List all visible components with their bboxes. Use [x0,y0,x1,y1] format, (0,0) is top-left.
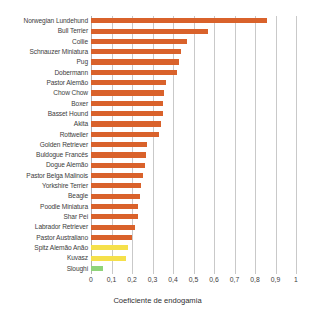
bar [91,256,126,261]
bar [91,245,128,250]
x-tick-label: 0,5 [189,276,198,283]
x-tick-label: 0,3 [148,276,157,283]
bar [91,101,163,106]
bar [91,132,159,137]
bar-row [91,78,296,88]
x-tick-label: 0,2 [127,276,136,283]
category-label: Chow Chow [0,88,88,98]
bar [91,29,208,34]
bar-row [91,68,296,78]
category-label: Pastor Belga Malinois [0,171,88,181]
category-label: Bull Terrier [0,26,88,36]
category-label: Pastor Alemão [0,78,88,88]
category-label: Boxer [0,99,88,109]
bar [91,39,187,44]
category-label: Kuvasz [0,253,88,263]
bar [91,204,138,209]
bar-row [91,253,296,263]
bar [91,163,145,168]
bar [91,225,135,230]
category-label: Dogue Alemão [0,160,88,170]
bar [91,70,177,75]
bar-row [91,202,296,212]
bar [91,142,147,147]
category-label: Buldogue Francês [0,150,88,160]
inbreeding-coefficient-bar-chart: Norwegian LundehundBull TerrierCollieSch… [0,0,315,327]
category-label: Akita [0,119,88,129]
category-label: Shar Pei [0,212,88,222]
bar [91,194,140,199]
category-label: Yorkshire Terrier [0,181,88,191]
category-label: Labrador Retriever [0,222,88,232]
x-tick-label: 0,1 [107,276,116,283]
bar [91,80,166,85]
bar-row [91,243,296,253]
gridline-1 [296,16,297,274]
category-axis-labels: Norwegian LundehundBull TerrierCollieSch… [0,16,88,274]
bar-series [91,16,296,274]
bar-row [91,47,296,57]
bar-row [91,150,296,160]
bar-row [91,264,296,274]
bar [91,59,179,64]
category-label: Sloughi [0,264,88,274]
x-tick-label: 0,4 [168,276,177,283]
category-label: Spitz Alemão Anão [0,243,88,253]
bar [91,121,161,126]
category-label: Golden Retriever [0,140,88,150]
category-label: Basset Hound [0,109,88,119]
category-label: Schnauzer Miniatura [0,47,88,57]
bar [91,152,146,157]
category-label: Norwegian Lundehund [0,16,88,26]
bar-row [91,109,296,119]
bar-row [91,222,296,232]
bar-row [91,171,296,181]
bar-row [91,88,296,98]
x-tick-label: 1 [294,276,298,283]
bar-row [91,119,296,129]
x-tick-label: 0,9 [271,276,280,283]
category-label: Collie [0,37,88,47]
bar-row [91,130,296,140]
bar [91,111,163,116]
bar [91,173,143,178]
bar-row [91,140,296,150]
bar-row [91,212,296,222]
bar-row [91,99,296,109]
category-label: Rottweiler [0,130,88,140]
category-label: Beagle [0,191,88,201]
category-label: Pastor Australiano [0,233,88,243]
bar-row [91,16,296,26]
plot-area [91,16,296,274]
category-label: Pug [0,57,88,67]
bar-row [91,160,296,170]
x-tick-label: 0 [89,276,93,283]
x-tick-label: 0,6 [209,276,218,283]
bar [91,90,164,95]
x-axis-tick-labels: 00,10,20,30,40,50,60,70,80,91 [91,276,296,290]
x-tick-label: 0,7 [230,276,239,283]
bar-row [91,37,296,47]
bar [91,266,103,271]
bar-row [91,181,296,191]
bar [91,49,181,54]
bar-row [91,233,296,243]
bar-row [91,57,296,67]
x-axis-title: Coeficiente de endogamia [0,296,315,305]
x-tick-label: 0,8 [250,276,259,283]
bar [91,183,141,188]
category-label: Poodle Miniatura [0,202,88,212]
bar-row [91,191,296,201]
bar [91,235,132,240]
bar [91,214,138,219]
bar-row [91,26,296,36]
category-label: Dobermann [0,68,88,78]
bar [91,18,267,23]
